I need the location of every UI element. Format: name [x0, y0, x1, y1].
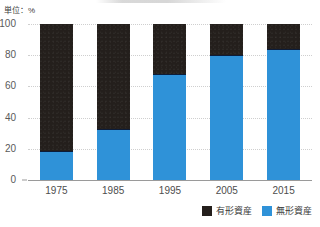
x-axis-tick-label: 1975 — [40, 184, 73, 198]
bar-stack — [210, 24, 243, 180]
bar-segment-tangible — [210, 24, 243, 56]
scan-artifact-strip — [96, 0, 226, 3]
legend-label: 有形資産 — [216, 206, 252, 216]
bar-segment-intangible — [40, 152, 73, 180]
legend-label: 無形資産 — [276, 206, 312, 216]
y-axis-tick-label: 80 — [0, 50, 16, 60]
x-axis-tick-label: 1995 — [153, 184, 186, 198]
y-axis-tick-label: 60 — [0, 81, 16, 91]
bar-stack — [153, 24, 186, 180]
legend-item-intangible[interactable]: 無形資産 — [262, 206, 312, 216]
bar-stack — [40, 24, 73, 180]
bar-segment-tangible — [40, 24, 73, 152]
bar-segment-intangible — [210, 56, 243, 180]
legend-item-tangible[interactable]: 有形資産 — [202, 206, 252, 216]
y-axis-tick-label: 20 — [0, 144, 16, 154]
x-axis-tick-labels: 19751985199520052015 — [28, 184, 312, 198]
x-axis-tick-label: 1985 — [97, 184, 130, 198]
bar-column — [153, 24, 186, 180]
bar-segment-intangible — [153, 75, 186, 180]
bar-segment-tangible — [97, 24, 130, 130]
bar-segment-intangible — [267, 50, 300, 180]
y-axis-unit-label: 単位：% — [4, 6, 35, 16]
bar-segment-tangible — [153, 24, 186, 75]
bar-segment-intangible — [97, 130, 130, 180]
legend-swatch-icon — [262, 206, 272, 216]
axis-baseline — [28, 180, 312, 181]
bar-column — [267, 24, 300, 180]
bar-column — [97, 24, 130, 180]
y-axis-tick-label: 40 — [0, 113, 16, 123]
bar-stack — [267, 24, 300, 180]
stacked-bar-chart: 単位：% 020406080100 19751985199520052015 有… — [0, 0, 320, 227]
x-axis-tick-label: 2005 — [210, 184, 243, 198]
bar-stack — [97, 24, 130, 180]
bar-segment-tangible — [267, 24, 300, 50]
x-axis-tick-label: 2015 — [267, 184, 300, 198]
plot-area: 020406080100 — [28, 24, 312, 180]
bar-group — [28, 24, 312, 180]
bar-column — [40, 24, 73, 180]
y-axis-tick-label: 0 — [0, 175, 16, 185]
y-axis-tick-label: 100 — [0, 19, 16, 29]
y-axis-tick-mark — [22, 180, 27, 181]
chart-legend: 有形資産無形資産 — [202, 206, 312, 216]
legend-swatch-icon — [202, 206, 212, 216]
bar-column — [210, 24, 243, 180]
